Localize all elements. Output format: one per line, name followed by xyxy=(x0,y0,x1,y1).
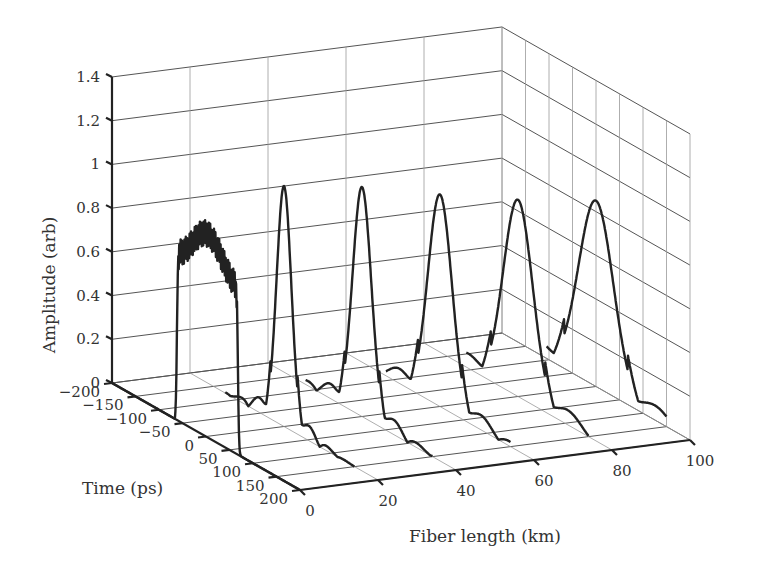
trace-60km xyxy=(386,194,511,442)
z-tick-label: 0.2 xyxy=(76,330,100,348)
fiber-tick-label: 20 xyxy=(378,492,397,510)
x-axis-title: Time (ps) xyxy=(82,478,163,498)
trace-100km xyxy=(547,200,667,416)
traces xyxy=(112,186,667,490)
time-tick-label: −50 xyxy=(139,423,171,441)
grid xyxy=(112,27,690,490)
fiber-tick-label: 60 xyxy=(534,472,553,490)
fiber-tick-label: 0 xyxy=(305,502,315,520)
z-tick-label: 1.2 xyxy=(76,112,100,130)
z-tick-label: 0.6 xyxy=(76,243,100,261)
time-tick-label: 200 xyxy=(259,490,288,508)
trace-20km xyxy=(225,186,354,467)
z-tick-label: 0.4 xyxy=(76,287,100,305)
fiber-tick-label: 100 xyxy=(686,452,715,470)
y-axis-title: Fiber length (km) xyxy=(409,526,561,546)
z-tick-label: 1.4 xyxy=(76,68,100,86)
z-tick-label: 0.8 xyxy=(76,199,100,217)
waterfall-chart: 00.20.40.60.811.21.4−200−150−100−5005010… xyxy=(0,0,757,578)
axes xyxy=(104,74,695,495)
z-axis-title: Amplitude (arb) xyxy=(39,217,59,355)
fiber-tick-label: 80 xyxy=(612,462,631,480)
z-tick-label: 1 xyxy=(90,155,100,173)
time-tick-label: 0 xyxy=(184,437,194,455)
fiber-tick-label: 40 xyxy=(456,482,475,500)
